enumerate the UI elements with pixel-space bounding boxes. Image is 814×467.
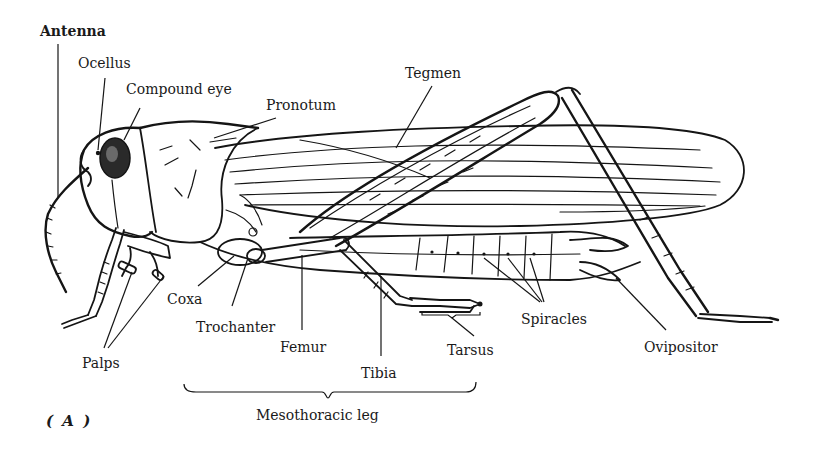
label-ocellus: Ocellus: [78, 56, 131, 70]
label-femur: Femur: [280, 340, 326, 354]
grasshopper-diagram: Antenna Ocellus Compound eye Pronotum Te…: [0, 0, 814, 467]
abdomen-drawing: [200, 232, 640, 281]
head-drawing: [81, 128, 152, 237]
label-tarsus: Tarsus: [447, 343, 494, 357]
label-ovipositor: Ovipositor: [644, 340, 718, 354]
label-pronotum: Pronotum: [266, 98, 336, 112]
label-compound-eye: Compound eye: [126, 82, 232, 96]
figure-panel-label: ( A ): [46, 414, 92, 429]
label-coxa: Coxa: [167, 292, 202, 306]
label-antenna: Antenna: [40, 24, 106, 38]
thorax-drawing: [140, 121, 262, 242]
label-mesothoracic-leg: Mesothoracic leg: [256, 408, 379, 422]
label-spiracles: Spiracles: [521, 312, 587, 326]
wing-drawing: [215, 125, 744, 226]
label-tibia: Tibia: [361, 366, 397, 380]
mesothoracic-leg-drawing: [218, 238, 483, 312]
mouthparts-drawing: [62, 228, 170, 328]
label-tegmen: Tegmen: [405, 66, 461, 80]
label-palps: Palps: [82, 356, 120, 370]
label-trochanter: Trochanter: [196, 320, 275, 334]
